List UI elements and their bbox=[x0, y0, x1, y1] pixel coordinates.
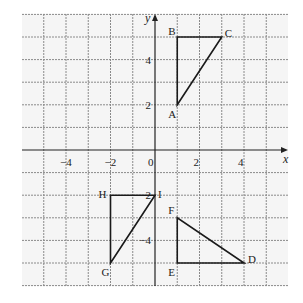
x-tick-label: 0 bbox=[148, 156, 154, 168]
vertex-label-h: H bbox=[99, 188, 107, 200]
coordinate-grid-diagram: xy −4−202442−2−4 ABCDEFGHI bbox=[0, 0, 303, 303]
vertex-label-g: G bbox=[102, 266, 110, 278]
x-axis-label: x bbox=[282, 152, 289, 166]
y-axis-label: y bbox=[144, 11, 151, 25]
vertex-label-c: C bbox=[225, 27, 232, 39]
vertex-label-i: I bbox=[158, 188, 162, 200]
x-tick-label: 2 bbox=[194, 156, 200, 168]
x-tick-label: −2 bbox=[105, 156, 117, 168]
x-tick-label: −4 bbox=[60, 156, 72, 168]
vertex-label-f: F bbox=[168, 204, 174, 216]
vertex-label-e: E bbox=[168, 266, 175, 278]
y-tick-label: 4 bbox=[146, 54, 152, 66]
vertex-label-a: A bbox=[168, 108, 176, 120]
vertex-label-d: D bbox=[248, 253, 256, 265]
y-tick-label: 2 bbox=[146, 99, 152, 111]
vertex-label-b: B bbox=[168, 25, 175, 37]
x-tick-label: 4 bbox=[238, 156, 244, 168]
y-tick-label: −4 bbox=[139, 234, 151, 246]
coordinate-plane: xy −4−202442−2−4 ABCDEFGHI bbox=[0, 0, 303, 303]
